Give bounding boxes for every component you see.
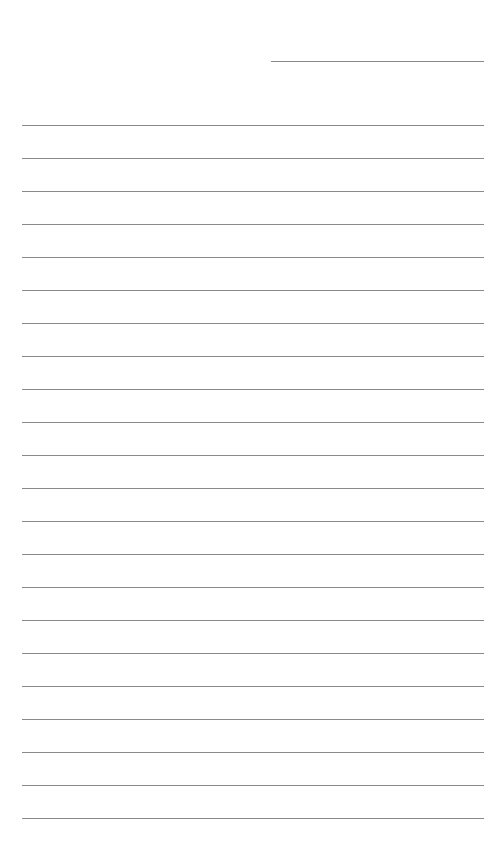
ruled-line [22,554,484,555]
ruled-line [22,224,484,225]
ruled-line [22,125,484,126]
ruled-line [22,587,484,588]
ruled-line [22,818,484,819]
ruled-line [22,158,484,159]
ruled-line [22,191,484,192]
ruled-line [22,653,484,654]
ruled-line [22,422,484,423]
ruled-line [22,455,484,456]
header-field-line [271,61,484,62]
ruled-line [22,389,484,390]
ruled-line [22,323,484,324]
ruled-line [22,752,484,753]
ruled-line [22,257,484,258]
ruled-line [22,719,484,720]
ruled-line [22,521,484,522]
ruled-line [22,356,484,357]
ruled-line [22,488,484,489]
ruled-line [22,290,484,291]
ruled-line [22,620,484,621]
ruled-line [22,686,484,687]
ruled-line [22,785,484,786]
